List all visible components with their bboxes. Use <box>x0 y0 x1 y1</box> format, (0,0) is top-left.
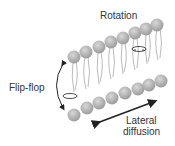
diffusion-label: diffusion <box>123 126 160 137</box>
flip-flop-label: Flip-flop <box>9 82 45 93</box>
lateral-label: Lateral <box>126 115 157 126</box>
flip-flop-arrow-icon <box>57 64 64 108</box>
rotation-arrow-icon <box>132 47 146 52</box>
rotation-arrow-lower-icon <box>63 94 77 99</box>
rotation-label: Rotation <box>100 10 137 21</box>
